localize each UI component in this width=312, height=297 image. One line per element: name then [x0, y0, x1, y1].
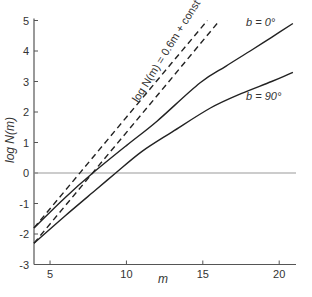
series-line-1 — [34, 21, 220, 244]
b0-label: b = 0° — [246, 16, 276, 28]
y-tick-label: 3 — [23, 76, 29, 88]
y-tick-label: 1 — [23, 137, 29, 149]
chart-container: 543210-1-2-35101520 log N(m) m log N(m) … — [0, 0, 312, 297]
y-tick-label: -1 — [19, 198, 29, 210]
x-tick-label: 5 — [47, 268, 53, 280]
chart-svg: 543210-1-2-35101520 log N(m) m log N(m) … — [0, 0, 312, 297]
x-tick-label: 10 — [120, 268, 132, 280]
y-tick-label: 5 — [23, 15, 29, 27]
y-tick-label: 4 — [23, 45, 29, 57]
dashed-line-annotation: log N(m) = 0.6m + const — [130, 0, 203, 104]
y-tick-label: 0 — [23, 167, 29, 179]
x-tick-label: 20 — [273, 268, 285, 280]
b90-label: b = 90° — [246, 90, 282, 102]
series-line-0 — [34, 21, 207, 228]
y-tick-label: 2 — [23, 106, 29, 118]
x-axis-title: m — [158, 272, 168, 286]
y-axis-title: log N(m) — [3, 117, 17, 163]
y-tick-label: -3 — [19, 259, 29, 271]
y-tick-label: -2 — [19, 228, 29, 240]
x-tick-label: 15 — [197, 268, 209, 280]
